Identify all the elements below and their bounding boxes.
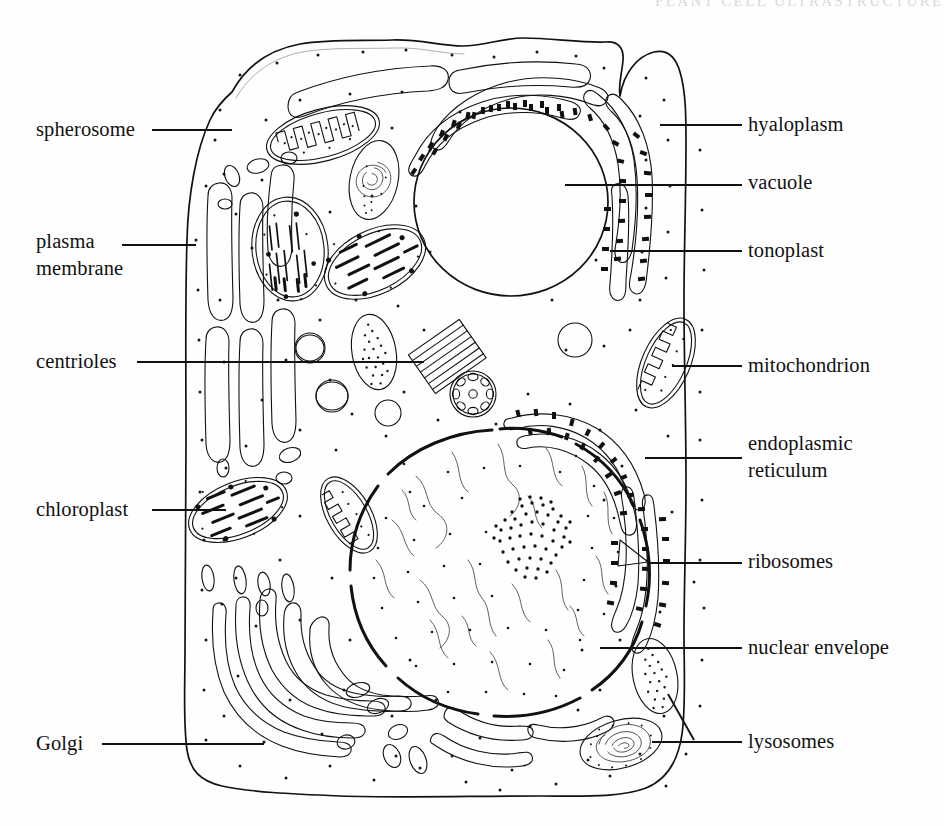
label-golgi: Golgi [36, 730, 83, 757]
lysosome-whorled-upper [342, 136, 406, 224]
vacuole [414, 108, 608, 296]
label-spherosome: spherosome [36, 116, 135, 143]
lysosome-stippled-middle [346, 311, 403, 393]
label-lysosomes: lysosomes [748, 728, 834, 755]
label-mitochondrion: mitochondrion [748, 352, 870, 379]
label-ribosomes: ribosomes [748, 548, 833, 575]
label-text-line1: Golgi [36, 732, 83, 754]
label-vacuole: vacuole [748, 169, 812, 196]
label-text-line1: plasma [36, 230, 95, 252]
mitochondrion-right [625, 309, 708, 416]
ribosome-dots-upper [410, 100, 652, 281]
label-text-line1: tonoplast [748, 239, 824, 261]
label-text-line1: lysosomes [748, 730, 834, 752]
label-text-line1: vacuole [748, 171, 812, 193]
chloroplast-upper-middle [311, 207, 437, 315]
label-text-line1: ribosomes [748, 550, 833, 572]
chromatin-strands [376, 444, 612, 690]
label-text-line2: reticulum [748, 459, 827, 481]
label-chloroplast: chloroplast [36, 496, 128, 523]
label-text-line1: mitochondrion [748, 354, 870, 376]
label-text-line1: spherosome [36, 118, 135, 140]
label-text-line1: centrioles [36, 350, 117, 372]
label-plasma-membrane: plasmamembrane [36, 228, 123, 282]
label-text-line2: membrane [36, 257, 123, 279]
label-endoplasmic-reticulum: endoplasmicreticulum [748, 430, 853, 484]
label-nuclear-envelope: nuclear envelope [748, 634, 889, 661]
rough-endoplasmic-reticulum-right [504, 409, 670, 653]
hyaloplasm-stipple [195, 49, 706, 792]
label-centrioles: centrioles [36, 348, 117, 375]
nucleus [350, 428, 649, 716]
label-text-line1: nuclear envelope [748, 636, 889, 658]
label-text-line1: hyaloplasm [748, 113, 844, 135]
tonoplast-and-rough-er-upper [409, 78, 653, 301]
label-tonoplast: tonoplast [748, 237, 824, 264]
smooth-endoplasmic-reticulum [205, 152, 348, 484]
chloroplast-upper-left [247, 193, 333, 304]
label-hyaloplasm: hyaloplasm [748, 111, 844, 138]
lysosome-lower-right-whorled [574, 694, 694, 779]
label-text-line1: endoplasmic [748, 432, 853, 454]
nucleolus [492, 495, 571, 579]
lysosome-lower-right-upper [626, 634, 685, 717]
centriole-cross-section [450, 371, 496, 417]
mitochondrion-upper-left [260, 95, 386, 175]
label-text-line1: chloroplast [36, 498, 128, 520]
centriole-longitudinal-section [408, 319, 486, 393]
